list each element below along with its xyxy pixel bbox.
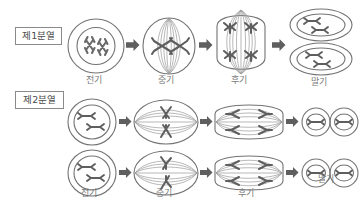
cell-membrane bbox=[68, 99, 116, 145]
cell-membrane bbox=[143, 18, 195, 74]
cell-metaphase-2-upper bbox=[133, 98, 199, 146]
cell-prophase-1 bbox=[66, 16, 126, 76]
caption-anaphase-1: 후기 bbox=[231, 76, 247, 85]
chromosomes bbox=[304, 18, 330, 67]
arrow-anaphase2l-to-telophase2l bbox=[286, 166, 299, 179]
row-label-second-division-text: 제2분열 bbox=[21, 95, 58, 105]
stage-telophase-2-upper bbox=[301, 101, 359, 143]
stage-metaphase-1 bbox=[140, 16, 198, 76]
arrow-prophase2u-to-metaphase2u bbox=[119, 115, 132, 128]
chromosomes bbox=[78, 113, 104, 130]
cell-metaphase-1 bbox=[140, 16, 198, 76]
spindle-fibers bbox=[227, 10, 256, 74]
nuclear-envelope bbox=[77, 28, 115, 65]
arrow-prophase2l-to-metaphase2l bbox=[119, 166, 132, 179]
nuclear-envelope bbox=[74, 105, 110, 139]
row-label-first-division: 제1분열 bbox=[15, 27, 62, 45]
caption-metaphase-1: 중기 bbox=[158, 76, 174, 85]
chromosomes bbox=[85, 37, 108, 55]
stage-telophase-1 bbox=[288, 8, 356, 76]
meiosis-diagram: 제1분열 제2분열 전기 bbox=[0, 0, 361, 213]
chromosomes bbox=[78, 164, 104, 181]
stage-prophase-1 bbox=[66, 16, 126, 76]
nuclear-envelope bbox=[74, 156, 110, 190]
arrow-metaphase2l-to-anaphase2l bbox=[200, 166, 213, 179]
cell-telophase-2-upper bbox=[301, 101, 359, 143]
caption-anaphase-2: 후기 bbox=[238, 189, 254, 198]
cell-anaphase-2-upper bbox=[213, 98, 285, 146]
arrow-anaphase1-to-telophase1 bbox=[272, 38, 286, 52]
arrow-anaphase2u-to-telophase2u bbox=[286, 115, 299, 128]
stage-metaphase-2-upper bbox=[133, 98, 199, 146]
caption-prophase-1: 전기 bbox=[86, 76, 102, 85]
caption-telophase-2: 말기 bbox=[318, 175, 334, 184]
daughter-cell-bottom-nucleus bbox=[297, 48, 345, 70]
cell-telophase-1 bbox=[288, 8, 356, 76]
caption-metaphase-2: 중기 bbox=[156, 189, 172, 198]
row-label-first-division-text: 제1분열 bbox=[21, 31, 56, 41]
row-label-second-division: 제2분열 bbox=[15, 91, 64, 109]
stage-prophase-2-upper bbox=[66, 98, 118, 146]
cell-prophase-2-upper bbox=[66, 98, 118, 146]
caption-prophase-2: 전기 bbox=[81, 189, 97, 198]
arrow-prophase1-to-metaphase1 bbox=[126, 38, 140, 52]
stage-anaphase-1 bbox=[212, 6, 270, 78]
arrow-metaphase2u-to-anaphase2u bbox=[200, 115, 213, 128]
stage-anaphase-2-upper bbox=[213, 98, 285, 146]
cell-telophase-2-lower bbox=[301, 152, 359, 194]
caption-telophase-1: 말기 bbox=[311, 78, 327, 87]
stage-telophase-2-lower bbox=[301, 152, 359, 194]
arrow-metaphase1-to-anaphase1 bbox=[199, 38, 213, 52]
cell-anaphase-1 bbox=[212, 6, 270, 78]
